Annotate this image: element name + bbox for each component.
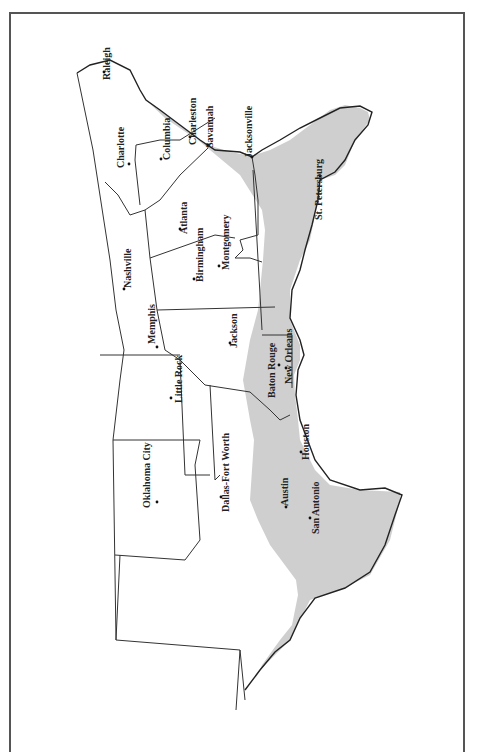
city-jacksonville: Jacksonville bbox=[243, 105, 254, 158]
city-austin: Austin bbox=[279, 477, 290, 508]
city-label: Oklahoma City bbox=[141, 442, 152, 508]
city-label: Dallas-Fort Worth bbox=[220, 433, 231, 512]
city-oklahoma-city: Oklahoma City bbox=[141, 442, 158, 508]
city-nashville: Nashville bbox=[122, 248, 133, 290]
city-label: Columbia bbox=[161, 118, 172, 160]
city-label: Memphis bbox=[146, 304, 157, 344]
city-label: San Antonio bbox=[310, 481, 321, 534]
city-montgomery: Montgomery bbox=[218, 214, 231, 270]
city-little-rock: Little Rock bbox=[170, 355, 184, 403]
city-label: Montgomery bbox=[220, 214, 231, 270]
city-dot-icon bbox=[156, 346, 159, 349]
city-label: St. Petersburg bbox=[313, 159, 324, 220]
city-dot-icon bbox=[128, 163, 131, 166]
city-label: Austin bbox=[279, 477, 290, 506]
city-columbia: Columbia bbox=[160, 118, 172, 161]
city-dot-icon bbox=[170, 397, 173, 400]
city-jackson: Jackson bbox=[228, 313, 239, 348]
city-raleigh: Raleigh bbox=[101, 47, 112, 80]
city-label: Jacksonville bbox=[243, 105, 254, 158]
city-label: Raleigh bbox=[101, 47, 112, 80]
city-san-antonio: San Antonio bbox=[309, 481, 321, 534]
city-label: Jackson bbox=[228, 313, 239, 348]
city-label: Savannah bbox=[204, 105, 215, 148]
city-label: Baton Rouge bbox=[266, 342, 277, 398]
city-st-petersburg: St. Petersburg bbox=[313, 159, 324, 220]
city-memphis: Memphis bbox=[146, 304, 158, 349]
city-savannah: Savannah bbox=[204, 105, 215, 148]
city-label: Atlanta bbox=[178, 202, 189, 234]
city-dot-icon bbox=[278, 364, 281, 367]
city-label: New Orleans bbox=[283, 329, 294, 384]
city-new-orleans: New Orleans bbox=[283, 329, 294, 384]
city-birmingham: Birmingham bbox=[193, 227, 205, 282]
city-label: Little Rock bbox=[173, 355, 184, 403]
city-dot-icon bbox=[156, 501, 159, 504]
city-charlotte: Charlotte bbox=[115, 126, 130, 168]
city-charleston: Charleston bbox=[187, 97, 198, 145]
city-label: Birmingham bbox=[194, 227, 205, 282]
city-dallas-fort-worth: Dallas-Fort Worth bbox=[220, 433, 231, 512]
city-label: Houston bbox=[300, 423, 311, 460]
city-atlanta: Atlanta bbox=[178, 202, 189, 234]
city-houston: Houston bbox=[300, 423, 311, 460]
city-label: Charlotte bbox=[115, 126, 126, 168]
city-label: Charleston bbox=[187, 97, 198, 145]
city-label: Nashville bbox=[122, 248, 133, 288]
